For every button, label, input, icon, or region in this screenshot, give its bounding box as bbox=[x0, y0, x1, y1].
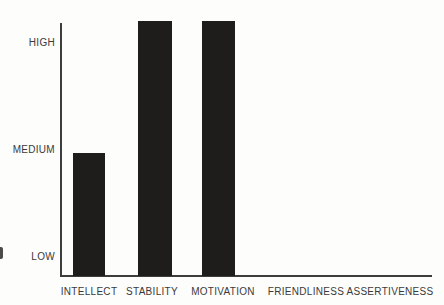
bar-chart: LOWMEDIUMHIGHINTELLECTSTABILITYMOTIVATIO… bbox=[0, 0, 444, 305]
y-tick-label-medium: MEDIUM bbox=[0, 144, 55, 156]
x-category-label-stability: STABILITY bbox=[126, 286, 178, 298]
x-axis-line bbox=[60, 275, 432, 277]
bar-motivation bbox=[202, 21, 235, 276]
y-axis-line bbox=[60, 23, 62, 277]
x-category-label-friendliness: FRIENDLINESS bbox=[268, 286, 344, 298]
bar-intellect bbox=[73, 153, 105, 276]
x-category-label-intellect: INTELLECT bbox=[61, 286, 118, 298]
y-tick-label-low: LOW bbox=[0, 251, 55, 263]
y-tick-label-high: HIGH bbox=[0, 37, 55, 49]
bar-stability bbox=[138, 21, 172, 276]
x-category-label-assertiveness: ASSERTIVENESS bbox=[346, 286, 433, 298]
x-category-label-motivation: MOTIVATION bbox=[191, 286, 255, 298]
